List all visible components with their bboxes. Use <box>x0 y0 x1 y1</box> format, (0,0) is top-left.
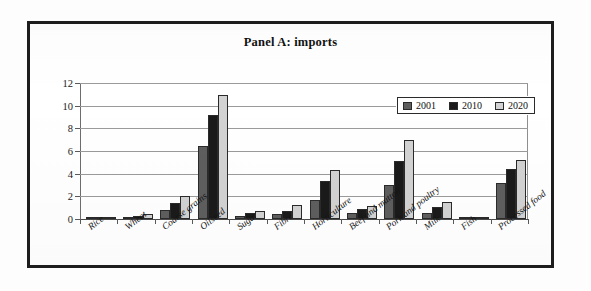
y-tick-label-10: 10 <box>63 100 74 111</box>
y-tick-label-6: 6 <box>68 146 73 157</box>
y-tick-mark-6 <box>75 151 80 152</box>
bar[interactable] <box>106 217 116 219</box>
legend-label: 2010 <box>462 100 482 111</box>
legend-item[interactable]: 2001 <box>403 100 436 111</box>
y-tick-mark-2 <box>75 196 80 197</box>
x-tick-mark <box>155 219 156 224</box>
legend-label: 2001 <box>416 100 436 111</box>
legend-swatch-icon <box>495 102 504 110</box>
bar[interactable] <box>479 217 489 219</box>
x-tick-mark <box>379 219 380 224</box>
bar[interactable] <box>198 146 208 219</box>
x-tick-mark <box>229 219 230 224</box>
x-tick-mark <box>267 219 268 224</box>
x-tick-mark <box>80 219 81 224</box>
y-tick-label-8: 8 <box>68 123 73 134</box>
legend-item[interactable]: 2020 <box>495 100 528 111</box>
legend-item[interactable]: 2010 <box>449 100 482 111</box>
bar-group <box>272 83 302 219</box>
chart-title: Panel A: imports <box>30 35 551 50</box>
y-tick-label-0: 0 <box>68 214 73 225</box>
legend-swatch-icon <box>449 102 458 110</box>
x-tick-mark <box>304 219 305 224</box>
bar[interactable] <box>218 95 228 219</box>
legend-swatch-icon <box>403 102 412 110</box>
y-tick-mark-12 <box>75 83 80 84</box>
x-tick-mark <box>341 219 342 224</box>
y-tick-mark-10 <box>75 106 80 107</box>
bar-group <box>310 83 340 219</box>
legend-label: 2020 <box>508 100 528 111</box>
x-tick-mark <box>416 219 417 224</box>
y-tick-mark-4 <box>75 174 80 175</box>
x-tick-mark <box>117 219 118 224</box>
bar-group <box>123 83 153 219</box>
x-tick-mark <box>491 219 492 224</box>
y-tick-label-12: 12 <box>63 78 74 89</box>
y-tick-label-2: 2 <box>68 191 73 202</box>
bar-group <box>86 83 116 219</box>
bar[interactable] <box>442 202 452 219</box>
bar-group <box>235 83 265 219</box>
bar[interactable] <box>208 115 218 219</box>
figure-border: Panel A: imports 024681012 RiceWheatCoar… <box>27 21 554 268</box>
y-tick-mark-8 <box>75 128 80 129</box>
y-tick-label-4: 4 <box>68 168 73 179</box>
x-tick-mark <box>528 219 529 224</box>
x-tick-mark <box>192 219 193 224</box>
x-tick-mark <box>453 219 454 224</box>
bar[interactable] <box>496 183 506 219</box>
bar-group <box>160 83 190 219</box>
bar-group <box>347 83 377 219</box>
legend[interactable]: 200120102020 <box>397 97 535 114</box>
figure-root: Panel A: imports 024681012 RiceWheatCoar… <box>0 0 591 291</box>
